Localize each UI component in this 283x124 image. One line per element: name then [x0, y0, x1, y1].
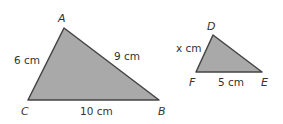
similar-triangles-diagram: A C B 6 cm 9 cm 10 cm D F E x cm 5 cm	[0, 0, 283, 124]
triangle-abc	[28, 28, 159, 100]
triangle-def	[196, 35, 262, 72]
vertex-a-label: A	[57, 12, 66, 25]
side-fe-label: 5 cm	[218, 76, 244, 88]
side-cb-label: 10 cm	[80, 105, 113, 117]
vertex-d-label: D	[207, 20, 215, 33]
side-ac-label: 6 cm	[14, 54, 40, 66]
side-df-label: x cm	[176, 42, 202, 54]
vertex-b-label: B	[158, 105, 166, 118]
vertex-f-label: F	[189, 76, 196, 89]
vertex-c-label: C	[21, 105, 29, 118]
vertex-e-label: E	[261, 76, 268, 89]
side-ab-label: 9 cm	[114, 50, 140, 62]
